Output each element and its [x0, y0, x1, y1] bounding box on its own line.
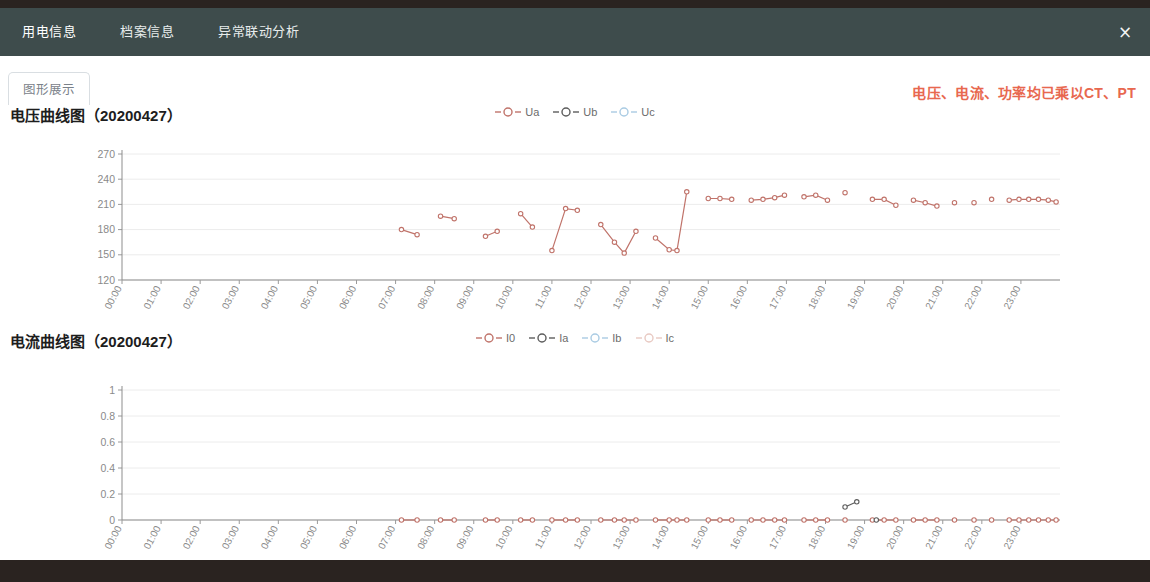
x-axis-tick-label: 21:00: [923, 283, 945, 311]
y-axis-tick-label: 1: [109, 384, 115, 396]
y-axis-tick-label: 210: [97, 198, 115, 210]
nav-tab-1[interactable]: 档案信息: [98, 8, 196, 56]
x-axis-tick-label: 10:00: [493, 523, 515, 551]
y-axis-tick-label: 0: [109, 514, 115, 526]
x-axis-tick-label: 01:00: [141, 283, 163, 311]
x-axis-tick-label: 13:00: [610, 283, 632, 311]
x-axis-tick-label: 08:00: [415, 283, 437, 311]
x-axis-tick-label: 22:00: [962, 523, 984, 551]
x-axis-tick-label: 07:00: [376, 283, 398, 311]
current-chart-canvas: 00.20.40.60.8100:0001:0002:0003:0004:000…: [0, 330, 1150, 566]
x-axis-tick-label: 16:00: [728, 283, 750, 311]
x-axis-tick-label: 06:00: [337, 523, 359, 551]
nav-tab-0[interactable]: 用电信息: [0, 8, 98, 56]
x-axis-tick-label: 15:00: [689, 523, 711, 551]
x-axis-tick-label: 05:00: [298, 523, 320, 551]
x-axis-tick-label: 00:00: [102, 523, 124, 551]
y-axis-tick-label: 120: [97, 274, 115, 286]
footer-bar: [0, 560, 1150, 582]
current-svg: 00.20.40.60.8100:0001:0002:0003:0004:000…: [0, 330, 1150, 562]
y-axis-tick-label: 0.8: [100, 410, 115, 422]
x-axis-tick-label: 06:00: [337, 283, 359, 311]
app-root: 用电信息档案信息异常联动分析 × 图形展示 电压、电流、功率均已乘以CT、PT …: [0, 0, 1150, 582]
ct-pt-notice: 电压、电流、功率均已乘以CT、PT: [912, 82, 1136, 102]
y-axis-tick-label: 0.2: [100, 488, 115, 500]
x-axis-tick-label: 04:00: [259, 283, 281, 311]
y-axis-tick-label: 180: [97, 223, 115, 235]
x-axis-tick-label: 08:00: [415, 523, 437, 551]
x-axis-tick-label: 09:00: [454, 283, 476, 311]
x-axis-tick-label: 05:00: [298, 283, 320, 311]
x-axis-tick-label: 23:00: [1001, 523, 1023, 551]
top-navigation-bar: 用电信息档案信息异常联动分析 ×: [0, 8, 1150, 56]
x-axis-tick-label: 16:00: [728, 523, 750, 551]
voltage-chart-block: 电压曲线图（20200427） UaUbUc 12015018021024027…: [0, 104, 1150, 324]
x-axis-tick-label: 18:00: [806, 523, 828, 551]
x-axis-tick-label: 03:00: [220, 523, 242, 551]
voltage-svg: 12015018021024027000:0001:0002:0003:0004…: [0, 104, 1150, 324]
x-axis-tick-label: 19:00: [845, 523, 867, 551]
x-axis-tick-label: 12:00: [571, 283, 593, 311]
x-axis-tick-label: 09:00: [454, 523, 476, 551]
y-axis-tick-label: 0.4: [100, 462, 115, 474]
x-axis-tick-label: 18:00: [806, 283, 828, 311]
y-axis-tick-label: 150: [97, 248, 115, 260]
x-axis-tick-label: 13:00: [610, 523, 632, 551]
x-axis-tick-label: 14:00: [649, 523, 671, 551]
x-axis-tick-label: 07:00: [376, 523, 398, 551]
x-axis-tick-label: 00:00: [102, 283, 124, 311]
y-axis-tick-label: 0.6: [100, 436, 115, 448]
x-axis-tick-label: 02:00: [180, 283, 202, 311]
x-axis-tick-label: 17:00: [767, 523, 789, 551]
x-axis-tick-label: 01:00: [141, 523, 163, 551]
x-axis-tick-label: 17:00: [767, 283, 789, 311]
x-axis-tick-label: 14:00: [649, 283, 671, 311]
x-axis-tick-label: 15:00: [689, 283, 711, 311]
x-axis-tick-label: 02:00: [180, 523, 202, 551]
close-icon[interactable]: ×: [1114, 21, 1136, 43]
x-axis-tick-label: 04:00: [259, 523, 281, 551]
current-chart-block: 电流曲线图（20200427） I0IaIbIc 00.20.40.60.810…: [0, 330, 1150, 562]
tab-graph-display[interactable]: 图形展示: [8, 72, 90, 105]
x-axis-tick-label: 23:00: [1001, 283, 1023, 311]
x-axis-tick-label: 11:00: [533, 523, 554, 550]
x-axis-tick-label: 10:00: [493, 283, 515, 311]
x-axis-tick-label: 19:00: [845, 283, 867, 311]
voltage-chart-canvas: 12015018021024027000:0001:0002:0003:0004…: [0, 104, 1150, 328]
x-axis-tick-label: 20:00: [884, 523, 906, 551]
x-axis-tick-label: 22:00: [962, 283, 984, 311]
subtab-bar: 图形展示: [0, 56, 1150, 84]
y-axis-tick-label: 240: [97, 173, 115, 185]
x-axis-tick-label: 03:00: [220, 283, 242, 311]
nav-tab-label: 档案信息: [120, 24, 174, 39]
x-axis-tick-label: 12:00: [571, 523, 593, 551]
nav-tab-list: 用电信息档案信息异常联动分析: [0, 8, 321, 56]
nav-tab-label: 用电信息: [22, 24, 76, 39]
x-axis-tick-label: 20:00: [884, 283, 906, 311]
nav-tab-2[interactable]: 异常联动分析: [196, 8, 321, 56]
x-axis-tick-label: 21:00: [923, 523, 945, 551]
nav-tab-label: 异常联动分析: [218, 24, 299, 39]
y-axis-tick-label: 270: [97, 148, 115, 160]
x-axis-tick-label: 11:00: [533, 283, 554, 310]
series-ua: [399, 190, 1058, 256]
